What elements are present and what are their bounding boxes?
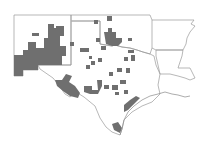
- county-tx-ne-3: [124, 57, 128, 61]
- county-nm-3: [70, 42, 74, 46]
- map-canvas: [0, 0, 213, 142]
- county-region-south-tip: [112, 122, 122, 133]
- county-tx-9: [112, 85, 118, 90]
- county-tx-4: [98, 58, 102, 62]
- county-tx-5: [89, 56, 92, 59]
- county-ok-2: [96, 38, 100, 42]
- county-ok-3: [101, 46, 106, 50]
- county-tx-1: [80, 48, 89, 52]
- county-region-gulf-coast: [124, 96, 140, 112]
- county-ok-4: [128, 38, 132, 41]
- county-tx-ne-1: [128, 50, 134, 53]
- county-tx-13: [115, 92, 119, 95]
- county-ok-1: [107, 16, 112, 21]
- county-tx-2: [91, 61, 95, 65]
- county-ok-5: [94, 20, 98, 24]
- county-region-red-river: [104, 28, 122, 46]
- county-tx-7: [117, 68, 122, 72]
- county-tx-6: [109, 72, 113, 76]
- county-nm-2: [48, 24, 54, 28]
- county-tx-10: [104, 85, 109, 89]
- highlighted-counties: [14, 16, 140, 133]
- county-tx-12: [124, 90, 128, 94]
- county-nm-1: [32, 33, 39, 36]
- arkansas-outline: [152, 20, 195, 50]
- county-region-trans-pecos: [55, 74, 80, 98]
- louisiana-outline: [156, 50, 195, 80]
- county-tx-8: [120, 80, 126, 84]
- county-tx-ne-2: [131, 55, 135, 61]
- county-region-big-bend-east: [84, 80, 102, 94]
- county-tx-11: [126, 68, 130, 73]
- county-tx-3: [86, 65, 90, 69]
